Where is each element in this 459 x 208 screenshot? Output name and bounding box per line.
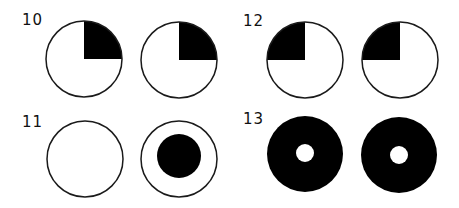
circles-diagram — [0, 0, 459, 208]
figure-11-circle-1 — [47, 121, 123, 197]
figure-12-circle-2 — [362, 22, 438, 98]
figure-13-disc-1 — [267, 116, 343, 192]
figure-11-circle-2 — [141, 121, 217, 197]
figure-12-circle-1 — [267, 22, 343, 98]
figure-10-circle-2 — [141, 22, 217, 98]
figure-10-circle-1 — [46, 21, 122, 97]
figure-13-disc-2 — [361, 117, 437, 193]
